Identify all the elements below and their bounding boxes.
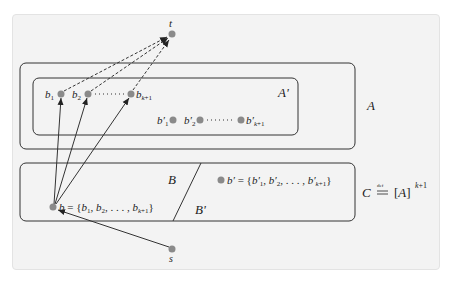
- node-t: [169, 31, 176, 38]
- label-bpk1: b′k+1: [246, 114, 265, 128]
- c-definition: C def [A] k+1: [362, 181, 427, 200]
- label-b-prime-set: b′ = {b′1, b′2, . . . , b′k+1}: [227, 174, 331, 188]
- node-bp1: [170, 117, 177, 124]
- label-bk1: bk+1: [136, 88, 153, 102]
- label-s: s: [169, 253, 173, 264]
- label-t: t: [169, 17, 173, 29]
- label-a: A: [366, 98, 375, 113]
- def-symbol: def: [377, 183, 384, 188]
- label-c: C: [362, 185, 371, 200]
- label-a-prime: A': [277, 85, 289, 100]
- node-b1: [58, 91, 65, 98]
- label-exponent: k+1: [415, 181, 427, 190]
- label-b1: b1: [45, 88, 55, 102]
- nodes: [50, 31, 245, 253]
- label-b2: b2: [72, 88, 82, 102]
- node-b2: [85, 91, 92, 98]
- label-b-set: b = {b1, b2, . . . , bk+1}: [59, 201, 154, 215]
- label-bp1: b′1: [157, 114, 169, 128]
- node-bp2: [197, 117, 204, 124]
- node-bk1: [128, 91, 135, 98]
- solid-edges: [54, 98, 169, 247]
- node-b: [50, 204, 57, 211]
- label-b-region: B: [168, 172, 176, 187]
- label-b-prime-region: B': [195, 202, 206, 217]
- diagram: t s b1 b2 bk+1 b′1 b′2 b′k+1 A' A B B' b…: [0, 0, 450, 281]
- node-bpk1: [238, 117, 245, 124]
- node-s: [169, 246, 176, 253]
- node-b-prime: [218, 177, 225, 184]
- dashed-edges: [64, 37, 169, 91]
- label-a-bracket: [A]: [394, 185, 411, 200]
- region-a-box: [20, 63, 355, 149]
- label-bp2: b′2: [184, 114, 196, 128]
